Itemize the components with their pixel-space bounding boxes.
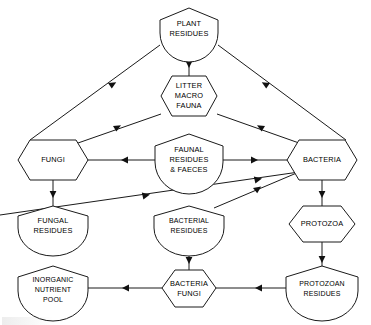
node-layer: PLANT RESIDUES LITTER MACRO FAUNA FUNGI … (18, 8, 358, 321)
bacteria-fungi-label-line-1: BACTERIA (170, 279, 208, 288)
litter-macro-fauna-label-line-1: LITTER (176, 81, 202, 90)
flow-diagram-canvas: PLANT RESIDUES LITTER MACRO FAUNA FUNGI … (0, 0, 371, 325)
faunal-residues-faeces-label-line-3: & FAECES (170, 165, 207, 174)
arrowhead-bacterial-residues-to-bacteria-fungi (186, 257, 193, 264)
edge-litter-to-bacteria (217, 114, 299, 143)
arrowhead-faunal-to-fungi (121, 157, 128, 164)
bacteria-fungi-label-line-2: FUNGI (177, 289, 201, 298)
inorganic-nutrient-pool-label-line-3: POOL (43, 296, 63, 303)
node-bacteria[interactable]: BACTERIA (287, 140, 357, 180)
plant-residues-label-line-1: PLANT (177, 19, 202, 28)
fungal-residues-label-line-2: RESIDUES (34, 226, 73, 235)
faunal-residues-faeces-label-line-1: FAUNAL (174, 145, 204, 154)
node-bacterial-residues[interactable]: BACTERIAL RESIDUES (154, 206, 224, 256)
node-protozoan-residues[interactable]: PROTOZOAN RESIDUES (286, 266, 358, 321)
arrowhead-bacteria-to-protozoa (319, 191, 326, 198)
inorganic-nutrient-pool-label-line-2: NUTRIENT (35, 286, 72, 293)
node-plant-residues[interactable]: PLANT RESIDUES (160, 8, 218, 62)
node-fungi[interactable]: FUNGI (18, 140, 88, 180)
plant-residues-label-line-2: RESIDUES (170, 29, 209, 38)
bacterial-residues-label-line-2: RESIDUES (171, 227, 208, 234)
node-bacteria-fungi[interactable]: BACTERIA FUNGI (162, 270, 216, 307)
inorganic-nutrient-pool-label-line-1: INORGANIC (32, 276, 73, 283)
protozoan-residues-label-line-1: PROTOZOAN (299, 280, 345, 287)
litter-macro-fauna-label-line-3: FAUNA (176, 101, 201, 110)
node-inorganic-nutrient-pool[interactable]: INORGANIC NUTRIENT POOL (18, 266, 88, 321)
arrowhead-protozoa-to-protozoan-residues (319, 256, 326, 263)
node-fungal-residues[interactable]: FUNGAL RESIDUES (18, 206, 88, 256)
arrowhead-bacteria-fungi-to-inorganic-pool (122, 285, 129, 292)
protozoa-label: PROTOZOA (301, 219, 344, 228)
node-protozoa[interactable]: PROTOZOA (289, 206, 355, 242)
arrowhead-plant-to-fungi (108, 82, 116, 88)
node-litter-macro-fauna[interactable]: LITTER MACRO FAUNA (161, 76, 217, 116)
edge-litter-to-fungi (78, 114, 161, 143)
inorganic-nutrient-pool-shape (18, 266, 88, 321)
arrowhead-plant-to-bacteria (262, 82, 270, 88)
litter-macro-fauna-label-line-2: MACRO (175, 91, 203, 100)
protozoan-residues-label-line-2: RESIDUES (304, 290, 341, 297)
arrowhead-bacteria-to-bacterial-residues (253, 186, 261, 193)
fungi-label: FUNGI (41, 155, 65, 164)
bacteria-label: BACTERIA (303, 155, 341, 164)
fungal-residues-label-line-1: FUNGAL (38, 216, 69, 225)
arrowhead-protozoan-residues-to-bacteria-fungi (255, 285, 262, 292)
edge-plant-to-fungi (30, 45, 160, 140)
arrowhead-faunal-to-bacteria (251, 157, 258, 164)
node-faunal-residues-faeces[interactable]: FAUNAL RESIDUES & FAECES (155, 134, 223, 194)
faunal-residues-faeces-label-line-2: RESIDUES (170, 155, 209, 164)
edge-plant-to-bacteria (218, 45, 346, 140)
decomposition-flow-diagram: PLANT RESIDUES LITTER MACRO FAUNA FUNGI … (0, 0, 371, 325)
bacterial-residues-label-line-1: BACTERIAL (169, 217, 209, 224)
arrowhead-fungi-to-fungal-residues (50, 191, 57, 198)
